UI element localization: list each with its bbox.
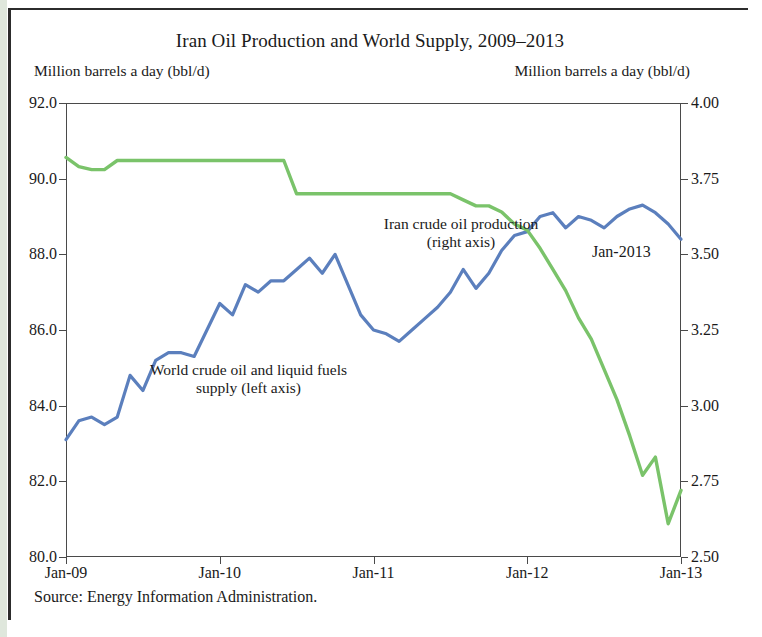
- right-axis-tick-label: 3.25: [691, 321, 719, 339]
- x-axis-tick-label: Jan-11: [352, 564, 394, 582]
- right-axis-tick-mark: [681, 254, 688, 255]
- right-axis-tick-mark: [681, 481, 688, 482]
- left-axis-tick-label: 88.0: [29, 245, 57, 263]
- x-axis-tick-label: Jan-09: [45, 564, 88, 582]
- right-axis-tick-mark: [681, 103, 688, 104]
- right-axis-tick-label: 3.75: [691, 170, 719, 188]
- plot-area: 80.082.084.086.088.090.092.0 2.502.753.0…: [66, 103, 681, 557]
- x-axis-tick-mark: [374, 557, 375, 564]
- right-axis-tick-label: 4.00: [691, 94, 719, 112]
- annotation-iran-production: Iran crude oil production (right axis): [366, 215, 556, 252]
- annotation-world-supply: World crude oil and liquid fuels supply …: [141, 361, 356, 398]
- left-axis-tick-label: 82.0: [29, 472, 57, 490]
- x-axis-tick-label: Jan-13: [660, 564, 703, 582]
- right-axis-title: Million barrels a day (bbl/d): [514, 62, 690, 80]
- right-axis-tick-mark: [681, 330, 688, 331]
- x-axis-tick-mark: [527, 557, 528, 564]
- right-axis-tick-mark: [681, 406, 688, 407]
- series-layer: [66, 103, 681, 557]
- left-axis-tick-label: 84.0: [29, 397, 57, 415]
- left-axis-tick-label: 92.0: [29, 94, 57, 112]
- right-axis-tick-label: 2.75: [691, 472, 719, 490]
- x-axis-tick-label: Jan-12: [506, 564, 549, 582]
- left-axis-tick-mark: [59, 557, 66, 558]
- left-axis-tick-mark: [59, 481, 66, 482]
- source-note: Source: Energy Information Administratio…: [34, 588, 317, 606]
- x-axis-tick-mark: [220, 557, 221, 564]
- figure-content: Iran Oil Production and World Supply, 20…: [0, 0, 762, 637]
- left-axis-tick-label: 86.0: [29, 321, 57, 339]
- right-axis-tick-mark: [681, 557, 688, 558]
- x-axis-tick-label: Jan-10: [198, 564, 241, 582]
- right-axis-tick-label: 3.50: [691, 245, 719, 263]
- left-axis-tick-mark: [59, 406, 66, 407]
- left-axis-tick-mark: [59, 179, 66, 180]
- left-axis-tick-mark: [59, 103, 66, 104]
- figure-page: Iran Oil Production and World Supply, 20…: [0, 0, 762, 637]
- x-axis-tick-mark: [66, 557, 67, 564]
- x-axis-tick-mark: [681, 557, 682, 564]
- annotation-endpoint-label: Jan-2013: [592, 243, 651, 261]
- left-axis-tick-mark: [59, 254, 66, 255]
- right-axis-tick-mark: [681, 179, 688, 180]
- left-axis-title: Million barrels a day (bbl/d): [34, 62, 210, 80]
- chart-title: Iran Oil Production and World Supply, 20…: [0, 30, 740, 52]
- left-axis-tick-label: 90.0: [29, 170, 57, 188]
- series-line-iran-production: [66, 157, 681, 523]
- left-axis-tick-mark: [59, 330, 66, 331]
- right-axis-tick-label: 3.00: [691, 397, 719, 415]
